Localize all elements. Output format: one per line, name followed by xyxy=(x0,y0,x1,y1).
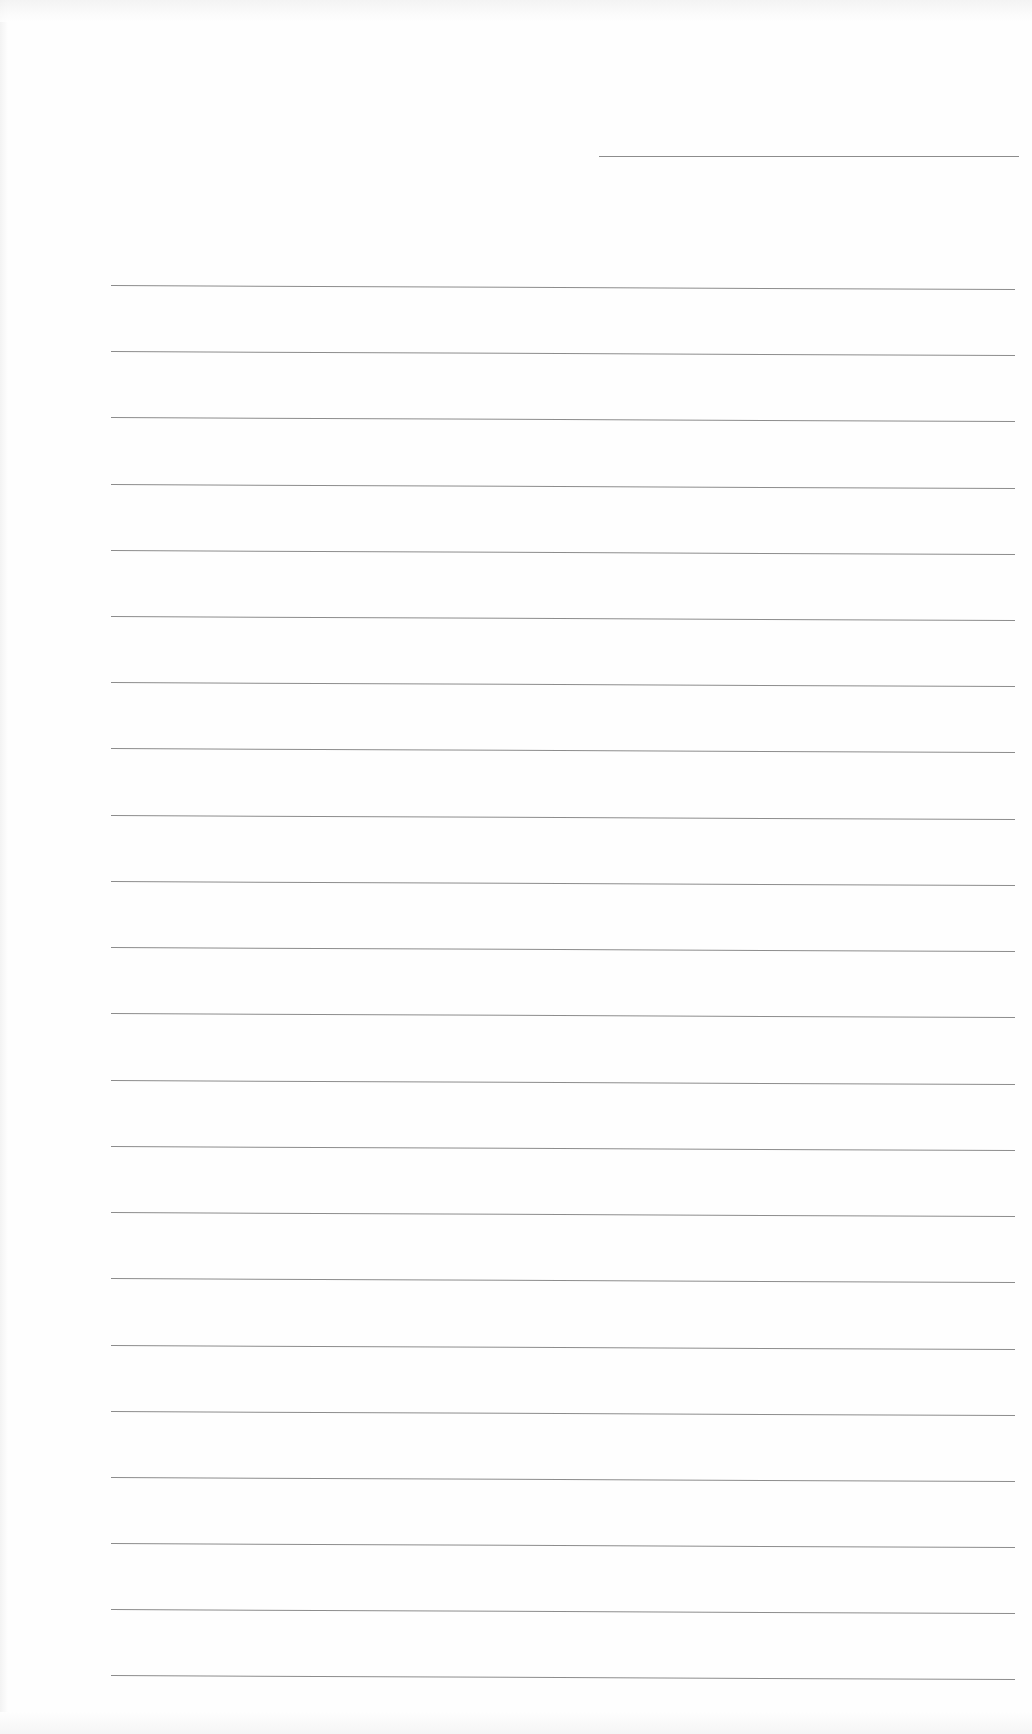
ruled-line xyxy=(111,947,1015,953)
ruled-line xyxy=(111,550,1015,556)
scan-bottom-bleed-through xyxy=(0,1712,1032,1734)
ruled-line xyxy=(111,417,1015,423)
ruled-line xyxy=(111,1212,1015,1218)
ruled-line xyxy=(111,1675,1015,1681)
scan-left-edge-shadow xyxy=(0,0,8,1734)
ruled-line xyxy=(111,1345,1015,1351)
ruled-line xyxy=(111,616,1015,622)
ruled-line xyxy=(111,1146,1015,1152)
ruled-line xyxy=(111,1477,1015,1483)
ruled-line xyxy=(111,1278,1015,1284)
ruled-line xyxy=(111,1013,1015,1019)
ruled-line xyxy=(111,682,1015,688)
ruled-line xyxy=(111,484,1015,490)
ruled-line xyxy=(111,1609,1015,1615)
ruled-line xyxy=(111,1411,1015,1417)
scan-top-bleed-through xyxy=(0,0,1032,22)
ruled-line xyxy=(111,1543,1015,1549)
ruled-line xyxy=(111,1080,1015,1086)
ruled-line xyxy=(111,351,1015,357)
header-name-line xyxy=(599,156,1019,157)
ruled-line xyxy=(111,748,1015,754)
ruled-line xyxy=(111,815,1015,821)
ruled-line xyxy=(111,881,1015,887)
ruled-line xyxy=(111,285,1015,291)
